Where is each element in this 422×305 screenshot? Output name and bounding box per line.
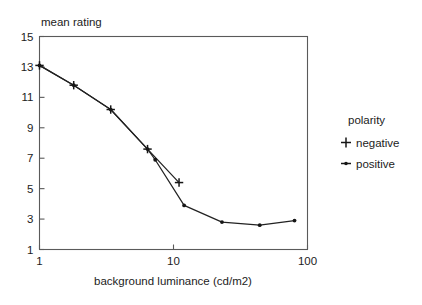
- dot-marker: [258, 223, 262, 227]
- x-tick-label: 1: [36, 255, 42, 267]
- y-axis-title: mean rating: [41, 16, 102, 28]
- legend-item-positive[interactable]: positive: [341, 158, 395, 170]
- dot-marker: [220, 220, 224, 224]
- x-axis-tick-labels: 110100: [36, 255, 317, 267]
- y-tick-label: 7: [27, 152, 33, 164]
- x-tick-label: 100: [298, 255, 317, 267]
- dot-marker: [109, 108, 113, 112]
- dot-marker: [146, 147, 150, 151]
- y-tick-label: 9: [27, 122, 33, 134]
- series-positive: [38, 64, 297, 228]
- x-tick-label: 10: [167, 255, 180, 267]
- dot-line-marker-icon: [341, 162, 351, 166]
- dot-marker: [153, 158, 157, 162]
- series-line: [40, 65, 295, 225]
- x-axis-ticks: [40, 245, 308, 250]
- y-axis-tick-labels: 15131197531: [21, 31, 34, 256]
- dot-marker: [38, 64, 42, 68]
- y-tick-label: 3: [27, 213, 33, 225]
- y-tick-label: 1: [27, 244, 33, 256]
- chart-canvas: mean rating 15131197531 110100 backgroun…: [0, 0, 422, 305]
- legend-title: polarity: [348, 114, 385, 126]
- y-tick-label: 15: [21, 31, 34, 43]
- dot-marker: [72, 83, 76, 87]
- y-tick-label: 11: [22, 91, 34, 103]
- dot-marker: [182, 203, 186, 207]
- y-tick-label: 13: [21, 61, 34, 73]
- x-axis-title: background luminance (cd/m2): [94, 275, 252, 287]
- y-tick-label: 5: [27, 183, 33, 195]
- legend-label-negative: negative: [356, 137, 399, 149]
- plus-marker-icon: [341, 138, 351, 148]
- data-series-layer: [35, 61, 296, 227]
- legend-label-positive: positive: [356, 158, 395, 170]
- legend-item-negative[interactable]: negative: [341, 137, 399, 149]
- legend: polarity negative positive: [341, 114, 399, 170]
- dot-marker: [293, 219, 297, 223]
- chart-figure: mean rating 15131197531 110100 backgroun…: [0, 0, 422, 305]
- plot-frame: [40, 37, 308, 250]
